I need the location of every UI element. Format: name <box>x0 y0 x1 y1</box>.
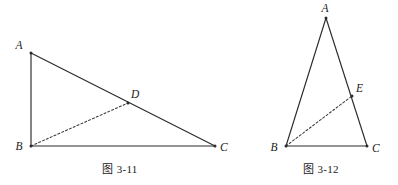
edge-BD-dashed <box>31 103 128 146</box>
vertex-dot-C <box>214 145 217 148</box>
point-dot-D <box>127 102 130 105</box>
figure-sheet: A B C D 图 3-11 A <box>0 0 398 185</box>
figure-3-11-solid-edges <box>31 53 215 146</box>
vertex-dot-A <box>30 52 33 55</box>
vertex-label-A: A <box>14 39 23 51</box>
vertex-label-B: B <box>15 140 22 152</box>
point-dot-E <box>351 95 354 98</box>
vertex-dot-B <box>285 145 288 148</box>
figure-3-12-solid-edges <box>286 18 367 146</box>
figure-3-12-labels: A B C E <box>270 2 380 154</box>
point-label-D: D <box>130 88 140 100</box>
figure-3-11-caption: 图 3-11 <box>0 160 240 176</box>
figure-3-11: A B C D 图 3-11 <box>0 0 240 185</box>
figure-3-11-drawing: A B C D <box>0 0 240 160</box>
vertex-label-B: B <box>270 141 277 153</box>
point-label-E: E <box>355 82 363 94</box>
figure-3-11-dashed-edges <box>31 103 128 146</box>
edge-AC <box>31 53 215 146</box>
figure-3-12-drawing: A B C E <box>240 0 398 160</box>
vertex-label-C: C <box>220 141 228 153</box>
figure-3-12-caption: 图 3-12 <box>240 160 398 176</box>
vertex-dot-C <box>366 145 369 148</box>
edge-BE-dashed <box>286 96 352 146</box>
vertex-label-C: C <box>372 142 380 154</box>
figure-3-12: A B C E 图 3-12 <box>240 0 398 185</box>
vertex-dot-B <box>30 145 33 148</box>
figure-3-12-dashed-edges <box>286 96 352 146</box>
vertex-dot-A <box>325 17 328 20</box>
vertex-label-A: A <box>320 2 329 14</box>
edge-AB <box>286 18 326 146</box>
